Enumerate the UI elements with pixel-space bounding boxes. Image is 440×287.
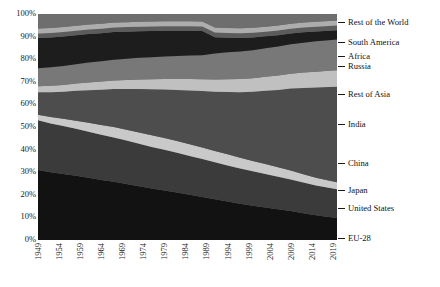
stacked-area-chart-figure: 100%90%80%70%60%50%40%30%20%10%0% 194919… [0, 0, 440, 287]
legend-label: Africa [348, 52, 370, 61]
legend-label: Japan [348, 186, 368, 195]
y-tick-label: 80% [2, 54, 36, 63]
legend-dash-icon [338, 56, 345, 57]
legend-item-south-america[interactable]: South America [338, 37, 399, 47]
y-tick-label: 40% [2, 145, 36, 154]
y-tick-label: 20% [2, 190, 36, 199]
y-tick-label: 90% [2, 32, 36, 41]
plot-svg [38, 14, 337, 240]
y-tick-label: 10% [2, 212, 36, 221]
legend-dash-icon [338, 208, 345, 209]
legend-label: India [348, 120, 366, 129]
legend-dash-icon [338, 22, 345, 23]
plot-area [38, 14, 337, 240]
x-tick-label: 1974 [139, 243, 148, 260]
legend: Rest of the WorldSouth AmericaAfricaRuss… [338, 0, 440, 287]
x-tick-label: 1954 [55, 243, 64, 260]
legend-item-india[interactable]: India [338, 119, 366, 129]
legend-item-united-states[interactable]: United States [338, 203, 394, 213]
x-tick-label: 2009 [287, 243, 296, 260]
legend-item-eu-28[interactable]: EU-28 [338, 233, 371, 243]
y-tick-label: 30% [2, 167, 36, 176]
legend-item-rest-of-the-world[interactable]: Rest of the World [338, 17, 409, 27]
y-tick-label: 70% [2, 77, 36, 86]
legend-label: EU-28 [348, 234, 371, 243]
x-tick-label: 1984 [181, 243, 190, 260]
x-tick-label: 1959 [76, 243, 85, 260]
legend-dash-icon [338, 124, 345, 125]
legend-item-russia[interactable]: Russia [338, 61, 371, 71]
legend-label: China [348, 159, 369, 168]
legend-dash-icon [338, 42, 345, 43]
legend-item-japan[interactable]: Japan [338, 185, 368, 195]
legend-label: South America [348, 38, 399, 47]
legend-label: Russia [348, 62, 371, 71]
x-axis: 1949195419591964196919741979198419891994… [38, 241, 337, 287]
y-tick-label: 60% [2, 99, 36, 108]
x-tick-label: 1949 [34, 243, 43, 260]
x-tick-label: 2019 [329, 243, 338, 260]
x-tick-label: 1999 [245, 243, 254, 260]
y-tick-label: 50% [2, 122, 36, 131]
legend-dash-icon [338, 94, 345, 95]
x-tick-label: 2004 [266, 243, 275, 260]
y-tick-label: 100% [2, 9, 36, 18]
x-tick-label: 1964 [97, 243, 106, 260]
legend-dash-icon [338, 66, 345, 67]
y-tick-label: 0% [2, 235, 36, 244]
legend-dash-icon [338, 190, 345, 191]
legend-label: Rest of the World [348, 18, 409, 27]
legend-dash-icon [338, 238, 345, 239]
x-tick-label: 1989 [202, 243, 211, 260]
legend-dash-icon [338, 163, 345, 164]
legend-item-rest-of-asia[interactable]: Rest of Asia [338, 89, 390, 99]
legend-label: United States [348, 204, 394, 213]
y-axis: 100%90%80%70%60%50%40%30%20%10%0% [0, 0, 36, 250]
legend-item-africa[interactable]: Africa [338, 51, 370, 61]
legend-label: Rest of Asia [348, 90, 390, 99]
x-tick-label: 2014 [308, 243, 317, 260]
legend-item-china[interactable]: China [338, 158, 369, 168]
x-tick-label: 1979 [160, 243, 169, 260]
x-tick-label: 1994 [224, 243, 233, 260]
x-tick-label: 1969 [118, 243, 127, 260]
